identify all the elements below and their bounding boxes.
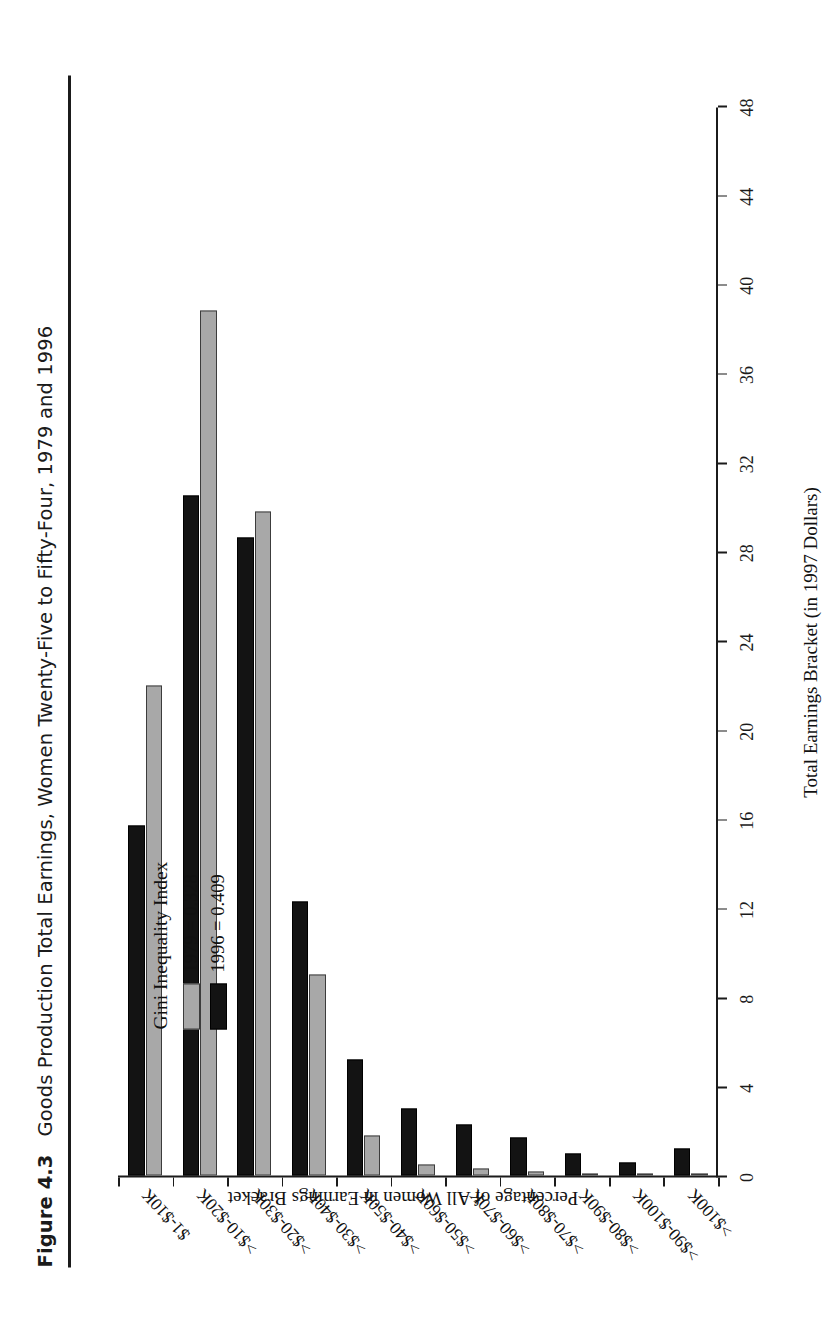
bar-1996 <box>183 495 199 1175</box>
value-tick-label: 36 <box>737 366 758 384</box>
bar-1996 <box>456 1124 472 1175</box>
bar-1979 <box>309 974 325 1175</box>
value-tick <box>718 195 727 197</box>
value-tick-label: 28 <box>737 544 758 562</box>
bar-1979 <box>200 310 216 1175</box>
legend-item-1979: 1979 = 0.328 <box>181 861 202 1029</box>
figure-page: Figure 4.3Goods Production Total Earning… <box>0 0 836 1329</box>
legend-label-1979: 1979 = 0.328 <box>181 874 202 972</box>
category-tick <box>391 1177 393 1186</box>
bar-1996 <box>237 537 253 1175</box>
bar-1996 <box>292 901 308 1175</box>
value-tick <box>718 997 727 999</box>
value-tick-label: 4 <box>737 1083 758 1092</box>
value-tick-label: 16 <box>737 811 758 829</box>
bar-1979 <box>255 511 271 1175</box>
value-tick <box>718 462 727 464</box>
category-tick <box>227 1177 229 1186</box>
value-tick <box>718 819 727 821</box>
legend: Gini Inequality Index 1979 = 0.328 1996 … <box>150 861 235 1029</box>
bar-1996 <box>401 1108 417 1175</box>
category-tick <box>282 1177 284 1186</box>
bar-1996 <box>565 1153 581 1175</box>
bar-1996 <box>128 825 144 1175</box>
figure-caption-text: Goods Production Total Earnings, Women T… <box>34 325 57 1136</box>
value-tick-label: 40 <box>737 276 758 294</box>
legend-item-1996: 1996 = 0.409 <box>208 861 229 1029</box>
value-tick <box>718 908 727 910</box>
value-tick-label: 24 <box>737 633 758 651</box>
value-tick-label: 8 <box>737 994 758 1003</box>
category-tick <box>445 1177 447 1186</box>
bar-1979 <box>582 1173 598 1175</box>
bar-1979 <box>528 1171 544 1175</box>
figure-number: Figure 4.3 <box>34 1154 57 1267</box>
x-axis-title: Total Earnings Bracket (in 1997 Dollars) <box>800 107 822 1177</box>
bar-1979 <box>473 1168 489 1175</box>
value-tick <box>718 551 727 553</box>
value-tick-label: 32 <box>737 455 758 473</box>
value-tick <box>718 1086 727 1088</box>
value-tick <box>718 640 727 642</box>
value-tick <box>718 373 727 375</box>
value-tick <box>718 730 727 732</box>
bar-1996 <box>510 1137 526 1175</box>
legend-swatch-1979 <box>183 983 200 1029</box>
category-tick <box>336 1177 338 1186</box>
bar-1996 <box>619 1162 635 1175</box>
figure-caption: Figure 4.3Goods Production Total Earning… <box>34 87 57 1267</box>
legend-title: Gini Inequality Index <box>150 861 172 1029</box>
category-tick <box>118 1177 120 1186</box>
value-tick <box>718 105 727 107</box>
value-tick-label: 12 <box>737 901 758 919</box>
value-tick-label: 0 <box>737 1173 758 1182</box>
y-axis-title: Percentage of All Women in Earnings Brac… <box>103 1186 703 1208</box>
bar-1979 <box>691 1173 707 1175</box>
category-tick <box>663 1177 665 1186</box>
category-tick <box>173 1177 175 1186</box>
category-tick <box>609 1177 611 1186</box>
bar-1996 <box>347 1059 363 1175</box>
bar-1979 <box>418 1164 434 1175</box>
caption-rule <box>68 75 71 1267</box>
value-tick-label: 48 <box>737 98 758 116</box>
category-tick <box>554 1177 556 1186</box>
category-tick <box>718 1177 720 1186</box>
value-tick-label: 20 <box>737 722 758 740</box>
legend-swatch-1996 <box>210 983 227 1029</box>
rotated-figure-content: Figure 4.3Goods Production Total Earning… <box>0 0 836 1329</box>
value-tick <box>718 284 727 286</box>
bar-1979 <box>364 1135 380 1175</box>
value-tick-label: 44 <box>737 187 758 205</box>
bar-1979 <box>637 1173 653 1175</box>
legend-label-1996: 1996 = 0.409 <box>208 874 229 972</box>
category-tick <box>500 1177 502 1186</box>
bar-1996 <box>674 1148 690 1175</box>
